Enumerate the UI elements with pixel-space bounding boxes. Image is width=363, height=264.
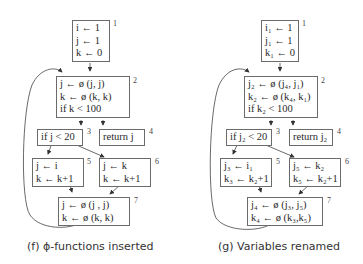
- block-number: 1: [302, 19, 306, 28]
- stmt: return j: [103, 131, 141, 144]
- block-number: 2: [133, 76, 137, 85]
- stmt: j₄ ← ø (j₃, j₅): [251, 199, 319, 212]
- stmt: k₂ ← ø (k₄, k₁): [248, 91, 314, 104]
- stmt: k₅ ← k₂+1: [293, 173, 337, 186]
- stmt: k ← k+1: [103, 173, 147, 186]
- block-number: 6: [345, 157, 349, 166]
- block-number: 3: [276, 127, 280, 136]
- stmt: if j₂ < 20: [230, 131, 268, 144]
- caption: (f) ϕ-functions inserted: [27, 240, 153, 253]
- stmt: j₂ ← ø (j₄, j₁): [248, 78, 314, 91]
- block-1: i₁ ← 1 j₁ ← 1 k₁ ← 0: [261, 20, 299, 62]
- block-4: return j₂: [289, 129, 333, 146]
- block-number: 4: [149, 127, 153, 136]
- block-4: return j: [99, 129, 145, 146]
- block-number: 7: [134, 196, 138, 205]
- caption: (g) Variables renamed: [218, 240, 340, 253]
- stmt: j₃ ← i₁: [224, 160, 268, 173]
- block-2: j ← ø (j, j) k ← ø (k, k) if k < 100: [56, 76, 130, 118]
- block-number: 5: [87, 157, 91, 166]
- stmt: if j < 20: [41, 131, 79, 144]
- stmt: j ← ø (j , j): [62, 199, 126, 212]
- block-number: 5: [276, 157, 280, 166]
- stmt: k ← ø (k, k): [62, 212, 126, 225]
- block-5: j₃ ← i₁ k₃ ← k₂+1: [220, 158, 272, 187]
- stmt: j ← i: [36, 160, 80, 173]
- stmt: return j₂: [293, 131, 329, 144]
- block-1: i ← 1 j ← 1 k ← 0: [72, 20, 110, 62]
- stmt: i ← 1: [76, 22, 106, 35]
- block-6: j ← k k ← k+1: [99, 158, 151, 187]
- stmt: i₁ ← 1: [265, 22, 295, 35]
- block-5: j ← i k ← k+1: [32, 158, 84, 187]
- stmt: j ← ø (j, j): [60, 78, 126, 91]
- stmt: j₁ ← 1: [265, 35, 295, 48]
- cfg-phi-inserted: i ← 1 j ← 1 k ← 0 1 j ← ø (j, j) k ← ø (…: [0, 0, 182, 264]
- block-2: j₂ ← ø (j₄, j₁) k₂ ← ø (k₄, k₁) if k₂ < …: [244, 76, 318, 118]
- stmt: if k < 100: [60, 103, 126, 116]
- stmt: k ← ø (k, k): [60, 91, 126, 104]
- block-6: j₅ ← k₂ k₅ ← k₂+1: [289, 158, 341, 187]
- stmt: k₃ ← k₂+1: [224, 173, 268, 186]
- cfg-variables-renamed: i₁ ← 1 j₁ ← 1 k₁ ← 0 1 j₂ ← ø (j₄, j₁) k…: [181, 0, 363, 264]
- block-number: 3: [87, 127, 91, 136]
- stmt: k₄ ← ø (k₃,k₅): [251, 212, 319, 225]
- stmt: if k₂ < 100: [248, 103, 314, 116]
- stmt: j₅ ← k₂: [293, 160, 337, 173]
- stmt: k ← 0: [76, 47, 106, 60]
- stmt: j ← 1: [76, 35, 106, 48]
- block-7: j₄ ← ø (j₃, j₅) k₄ ← ø (k₃,k₅): [247, 197, 323, 226]
- block-number: 2: [321, 76, 325, 85]
- block-number: 6: [155, 157, 159, 166]
- block-number: 1: [113, 19, 117, 28]
- stmt: j ← k: [103, 160, 147, 173]
- block-3: if j < 20: [37, 129, 83, 146]
- block-3: if j₂ < 20: [226, 129, 272, 146]
- block-number: 4: [337, 127, 341, 136]
- block-7: j ← ø (j , j) k ← ø (k, k): [58, 197, 130, 226]
- block-number: 7: [327, 196, 331, 205]
- stmt: k ← k+1: [36, 173, 80, 186]
- stmt: k₁ ← 0: [265, 47, 295, 60]
